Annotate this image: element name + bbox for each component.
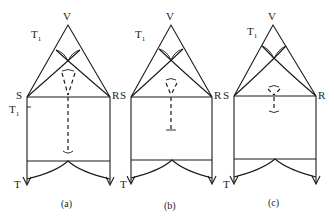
inner-line-left [131, 49, 183, 97]
label-s: S [223, 89, 229, 101]
label-s: S [16, 89, 22, 101]
stem-foot [269, 111, 279, 113]
caption-a: (a) [61, 198, 72, 210]
label-t: T [14, 178, 21, 190]
label-r: R [318, 89, 326, 101]
cone-left [268, 89, 274, 95]
inner-arc [159, 49, 183, 60]
tree-diagram-figure: V T1 S R T1 T (a) V T1 S [0, 0, 334, 222]
label-v: V [63, 10, 71, 22]
bottom-curves [27, 161, 110, 179]
label-t1-top: T1 [247, 25, 258, 40]
label-v: V [166, 10, 174, 22]
panel-b: V T1 S R T (b) [120, 10, 222, 212]
cone-left [62, 73, 68, 95]
caption-c: (c) [268, 197, 279, 209]
label-v: V [268, 10, 276, 22]
bottom-curves [131, 160, 212, 178]
label-r: R [214, 89, 222, 101]
cone-left [166, 83, 171, 95]
cone-right [171, 83, 177, 95]
cone-right [274, 89, 280, 95]
label-t1-top: T1 [135, 28, 146, 43]
inner-arc [262, 46, 286, 59]
inner-line-right [56, 50, 110, 97]
inner-line-right [262, 46, 316, 96]
panel-a: V T1 S R T1 T (a) [9, 10, 120, 210]
label-s: S [120, 89, 126, 101]
bottom-curves [234, 159, 316, 177]
panel-c: V T1 S R T (c) [223, 10, 326, 209]
cone-cap [62, 70, 74, 72]
inner-line-left [27, 50, 80, 97]
cone-cap [269, 86, 279, 88]
label-t1-top: T1 [31, 28, 42, 43]
caption-b: (b) [164, 200, 176, 212]
label-r: R [112, 89, 120, 101]
inner-arc [56, 50, 80, 61]
cone-right [68, 73, 75, 95]
label-t: T [120, 178, 127, 190]
inner-line-right [159, 49, 212, 97]
stem-foot [63, 151, 73, 153]
cone-cap [166, 79, 176, 81]
label-t: T [223, 178, 230, 190]
label-t1-side: T1 [9, 103, 20, 118]
inner-line-left [234, 46, 286, 96]
